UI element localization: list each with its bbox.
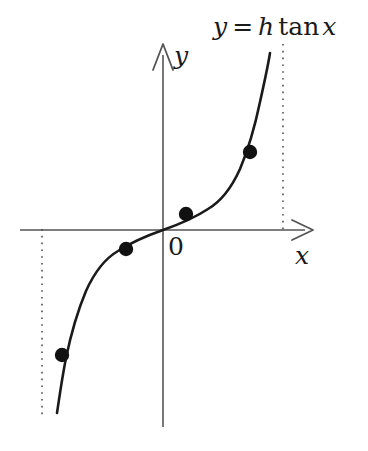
equation-operator: = — [232, 12, 253, 41]
equation-lhs: y — [213, 12, 227, 41]
data-point — [55, 348, 69, 362]
equation-coefficient: h — [258, 12, 274, 41]
equation-argument: x — [322, 12, 336, 41]
data-point — [119, 242, 133, 256]
equation-function: tan — [278, 12, 319, 41]
curve-points — [55, 145, 257, 362]
x-axis-label: x — [295, 243, 309, 268]
data-point — [243, 145, 257, 159]
y-axis-label: y — [174, 43, 188, 68]
data-point — [179, 207, 193, 221]
tangent-function-figure: y=htanx y x 0 — [0, 0, 368, 451]
origin-label: 0 — [168, 234, 184, 259]
equation-label: y=htanx — [213, 14, 336, 39]
